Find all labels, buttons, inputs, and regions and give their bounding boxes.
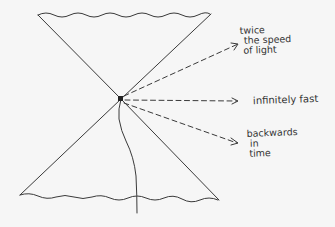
arrow-infinitely-fast — [125, 100, 237, 101]
event-point — [118, 96, 123, 101]
future-cone-rim — [38, 13, 210, 17]
past-cone-rim — [20, 194, 218, 202]
light-cone-diagram: twice the speed of light infinitely fast… — [0, 0, 335, 227]
arrow-faster-than-light — [124, 44, 238, 96]
arrow-backwards-in-time — [124, 103, 237, 143]
label-twice-speed-of-light: twice the speed of light — [239, 24, 291, 56]
past-cone-right-edge — [121, 99, 219, 200]
future-cone-left-edge — [38, 15, 121, 99]
label-backwards-in-time: backwards in time — [246, 127, 298, 159]
label-line: of light — [240, 44, 292, 56]
past-cone-left-edge — [20, 99, 121, 195]
future-cone-right-edge — [121, 14, 211, 99]
label-line: time — [247, 147, 298, 159]
label-line: infinitely fast — [253, 93, 319, 106]
